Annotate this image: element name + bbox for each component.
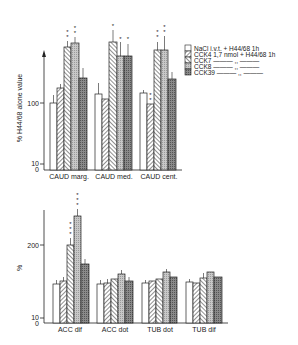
group-acc-dif: * * * * * *: [53, 192, 89, 323]
svg-text:*: *: [66, 29, 69, 35]
legend-label-cck39: CCK39 ——— ,, ———: [194, 69, 263, 76]
bottom-category-acc-dif: ACC dif: [58, 326, 82, 333]
svg-text:*: *: [76, 192, 79, 198]
svg-text:*: *: [127, 36, 130, 42]
group-caud-med: * * *: [95, 23, 132, 170]
svg-text:*: *: [69, 221, 72, 227]
bottom-category-acc-dot: ACC dot: [102, 326, 129, 333]
figure: % H44/68 alone value 100 10 0 * * * *: [0, 0, 298, 345]
bottom-tick-200: 200: [27, 242, 39, 249]
svg-text:*: *: [163, 24, 166, 30]
legend: NaCl i.v.t. + H44/68 1h CCK4 1,7 nmol + …: [185, 45, 276, 76]
bottom-category-tub-dif: TUB dif: [192, 326, 215, 333]
top-category-caud-cent: CAUD cent.: [141, 173, 178, 180]
legend-swatch-nacl: [185, 45, 191, 51]
legend-swatch-cck8: [185, 63, 191, 69]
group-caud-marg: * * * *: [50, 25, 87, 170]
svg-text:*: *: [156, 29, 159, 35]
top-category-caud-med: CAUD med.: [95, 173, 132, 180]
bottom-y-axis-label: %: [16, 265, 23, 271]
svg-text:*: *: [74, 25, 77, 31]
legend-swatch-cck39: [185, 69, 191, 75]
top-chart: % H44/68 alone value 100 10 0 * * * *: [16, 23, 182, 181]
group-tub-dot: [142, 269, 177, 323]
top-y-axis-arrow-icon: [42, 50, 46, 57]
group-acc-dot: [97, 270, 133, 323]
svg-text:*: *: [112, 23, 115, 29]
legend-swatch-cck4: [185, 51, 191, 57]
top-y-axis-label: % H44/68 alone value: [16, 74, 23, 143]
top-tick-100: 100: [27, 100, 39, 107]
top-tick-0: 0: [35, 166, 39, 173]
group-caud-cent: * * * * * *: [140, 24, 176, 170]
bottom-category-tub-dot: TUB dot: [147, 326, 173, 333]
bottom-chart: % 200 10 0 * * * * * *: [16, 192, 228, 333]
svg-text:*: *: [119, 36, 122, 42]
bottom-tick-0: 0: [35, 320, 39, 327]
top-category-caud-marg: CAUD marg.: [49, 173, 89, 181]
group-tub-dif: [186, 272, 222, 323]
svg-text:*: *: [149, 97, 152, 103]
legend-swatch-cck7: [185, 57, 191, 63]
